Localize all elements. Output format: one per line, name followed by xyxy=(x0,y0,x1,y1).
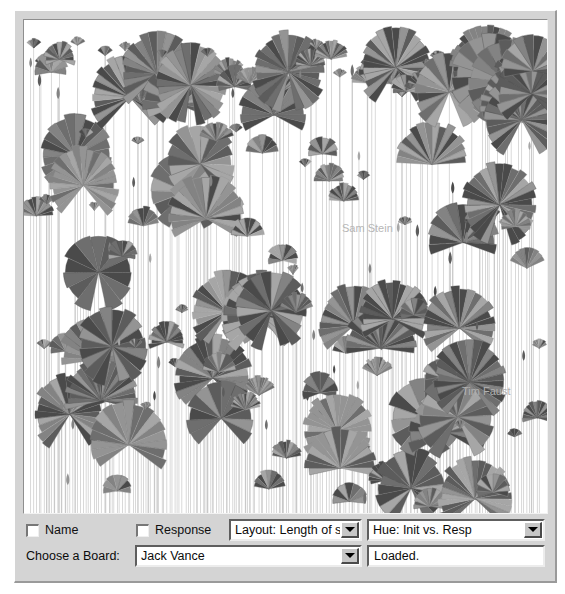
response-checkbox-label: Response xyxy=(155,523,211,537)
status-field-value: Loaded. xyxy=(374,549,419,563)
board-label: Choose a Board: xyxy=(26,545,120,567)
chevron-down-icon xyxy=(345,527,355,532)
thread-garden-canvas[interactable]: Sam SteinTim Faust xyxy=(24,20,547,513)
participant-label: Sam Stein xyxy=(342,222,393,234)
chevron-down-icon xyxy=(528,527,538,532)
response-checkbox-box[interactable] xyxy=(136,524,149,537)
hue-select-dropdown-button[interactable] xyxy=(524,522,542,538)
main-panel: Sam SteinTim Faust Name Response Layout:… xyxy=(14,10,557,583)
board-select-value: Jack Vance xyxy=(137,547,340,565)
name-checkbox-label: Name xyxy=(45,523,78,537)
control-panel: Name Response Layout: Length of stay Hue… xyxy=(23,519,548,574)
chevron-down-icon xyxy=(345,553,355,558)
hue-select[interactable]: Hue: Init vs. Resp xyxy=(367,519,545,541)
hue-select-value: Hue: Init vs. Resp xyxy=(369,521,523,539)
control-row-bottom: Choose a Board: Jack Vance Loaded. xyxy=(23,545,548,570)
layout-select[interactable]: Layout: Length of stay xyxy=(229,519,362,541)
board-select-dropdown-button[interactable] xyxy=(341,548,359,564)
participant-label: Tim Faust xyxy=(462,385,511,397)
name-checkbox[interactable]: Name xyxy=(26,520,78,540)
application-window: Sam SteinTim Faust Name Response Layout:… xyxy=(0,0,565,594)
name-checkbox-box[interactable] xyxy=(26,524,39,537)
board-select[interactable]: Jack Vance xyxy=(135,545,362,567)
response-checkbox[interactable]: Response xyxy=(136,520,211,540)
layout-select-dropdown-button[interactable] xyxy=(341,522,359,538)
control-row-top: Name Response Layout: Length of stay Hue… xyxy=(23,519,548,544)
status-field[interactable]: Loaded. xyxy=(367,545,545,567)
layout-select-value: Layout: Length of stay xyxy=(231,521,340,539)
visualization-frame: Sam SteinTim Faust xyxy=(23,19,548,514)
